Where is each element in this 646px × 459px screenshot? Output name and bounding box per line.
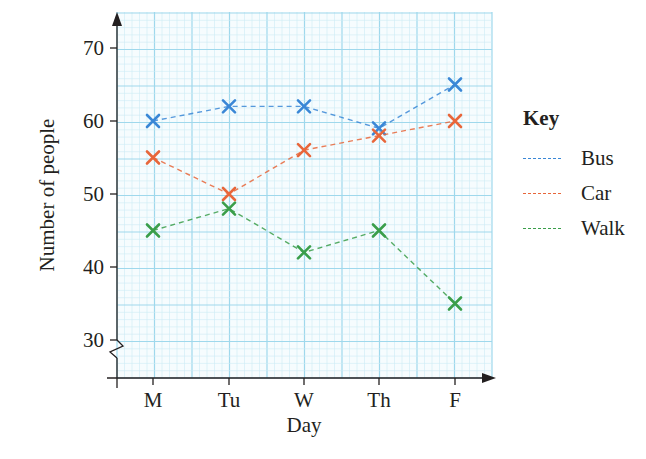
x-tick-label: M <box>144 388 163 412</box>
y-tick-label: 50 <box>83 182 104 206</box>
x-axis-title: Day <box>287 413 322 437</box>
legend-label: Walk <box>581 216 625 241</box>
legend-label: Car <box>581 181 611 206</box>
y-tick-label: 30 <box>83 328 104 352</box>
y-axis-title: Number of people <box>35 119 59 272</box>
x-tick-label: Tu <box>218 388 241 412</box>
y-tick-label: 40 <box>83 255 104 279</box>
legend-swatch-bus <box>523 158 561 159</box>
y-tick-label: 70 <box>83 36 104 60</box>
x-tick-label: F <box>449 388 461 412</box>
legend-swatch-car <box>523 193 561 194</box>
chart-grid <box>117 12 492 378</box>
legend-swatch-walk <box>523 228 561 229</box>
x-axis-ticks: MTuWThF <box>144 378 461 412</box>
legend-item-car: Car <box>523 176 625 211</box>
chart-legend: Key Bus Car Walk <box>523 106 625 246</box>
x-tick-label: W <box>294 388 314 412</box>
legend-title: Key <box>523 106 625 131</box>
y-axis-ticks: 3040506070 <box>83 36 117 352</box>
legend-label: Bus <box>581 146 614 171</box>
y-tick-label: 60 <box>83 109 104 133</box>
x-tick-label: Th <box>367 388 391 412</box>
legend-item-walk: Walk <box>523 211 625 246</box>
legend-item-bus: Bus <box>523 141 625 176</box>
